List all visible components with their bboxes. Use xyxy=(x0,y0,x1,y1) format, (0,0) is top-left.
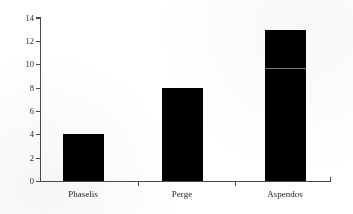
y-tick-label-2: 2 xyxy=(8,154,34,163)
y-tick-label-8: 8 xyxy=(8,84,34,93)
y-tick-4 xyxy=(36,134,41,135)
y-tick-10 xyxy=(36,64,41,65)
y-tick-14 xyxy=(36,18,41,19)
y-tick-label-6: 6 xyxy=(8,107,34,116)
y-tick-label-14: 14 xyxy=(8,14,34,23)
y-tick-12 xyxy=(36,41,41,42)
bar-perge xyxy=(162,88,203,181)
y-tick-label-12: 12 xyxy=(8,37,34,46)
y-tick-6 xyxy=(36,111,41,112)
bar-chart-figure: 0 2 4 6 8 10 12 14 Phaselis Perge Aspend… xyxy=(0,0,353,214)
y-tick-2 xyxy=(36,158,41,159)
y-tick-label-10: 10 xyxy=(8,60,34,69)
scan-artifact-line xyxy=(265,68,306,69)
bar-phaselis xyxy=(63,134,104,181)
x-axis-label-perge: Perge xyxy=(142,190,222,199)
x-axis-right-cap xyxy=(330,177,331,182)
x-tick-boundary-2 xyxy=(235,182,236,186)
y-tick-label-4: 4 xyxy=(8,130,34,139)
x-axis-label-phaselis: Phaselis xyxy=(43,190,123,199)
x-tick-boundary-1 xyxy=(138,182,139,186)
y-tick-8 xyxy=(36,88,41,89)
y-tick-label-0: 0 xyxy=(8,177,34,186)
x-axis-line xyxy=(40,181,331,182)
x-axis-label-aspendos: Aspendos xyxy=(245,190,325,199)
bar-aspendos xyxy=(265,30,306,181)
